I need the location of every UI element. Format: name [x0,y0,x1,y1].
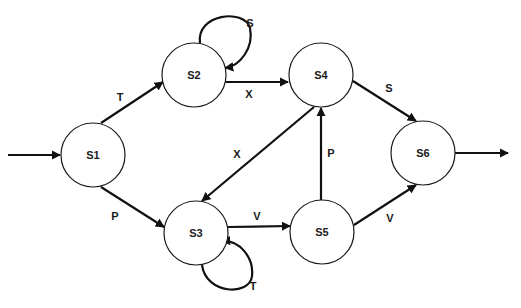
edge-s4-s3 [202,107,314,201]
state-s3: S3 [164,201,228,265]
edge-s1-s2 [101,82,163,123]
state-s1: S1 [61,123,125,187]
state-label: S6 [416,147,429,159]
edge-s5-s6 [354,185,416,225]
label-s4-s3: X [233,148,241,160]
state-label: S1 [86,149,99,161]
label-s3-s5: V [253,210,261,222]
label-s3-self: T [250,280,257,292]
transition-labels: T P S X T V X S P V [111,17,394,292]
state-diagram: T P S X T V X S P V S1 S2 S3 S4 S5 S6 [0,0,521,308]
label-s5-s4: P [327,147,334,159]
label-s5-s6: V [386,212,394,224]
state-label: S5 [315,226,328,238]
state-s6: S6 [391,121,455,185]
state-s2: S2 [162,43,226,107]
edge-s3-s5 [228,226,290,227]
state-label: S2 [187,69,200,81]
state-label: S3 [189,227,202,239]
label-s4-s6: S [385,82,392,94]
state-label: S4 [314,69,328,81]
label-s1-s3: P [111,210,118,222]
label-s1-s2: T [117,91,124,103]
state-s4: S4 [289,43,353,107]
label-s2-self: S [246,17,253,29]
label-s2-s4: X [245,88,253,100]
state-s5: S5 [290,200,354,264]
